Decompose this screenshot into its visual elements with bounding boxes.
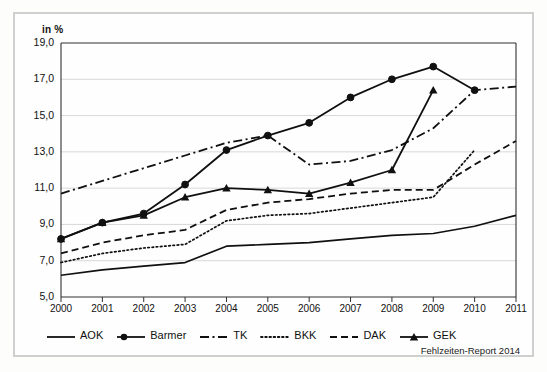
x-tick-label: 2001 bbox=[82, 303, 122, 314]
data-point-marker-barmer bbox=[306, 119, 313, 126]
x-tick-label: 2008 bbox=[372, 303, 412, 314]
axis-lines-group bbox=[61, 43, 516, 297]
series-line-gek bbox=[61, 90, 433, 239]
x-tick-label: 2004 bbox=[206, 303, 246, 314]
data-point-marker-barmer bbox=[182, 181, 189, 188]
data-point-marker-gek bbox=[388, 166, 396, 174]
legend-entry-aok[interactable]: AOK bbox=[46, 329, 103, 341]
legend-swatch-tk-icon bbox=[199, 329, 229, 341]
data-series-group bbox=[57, 63, 516, 275]
x-tick-label: 2005 bbox=[248, 303, 288, 314]
y-tick-label: 17,0 bbox=[24, 72, 54, 84]
chart-legend: AOKBarmerTKBKKDAKGEK bbox=[46, 326, 486, 344]
legend-label: AOK bbox=[80, 329, 103, 341]
x-tick-label: 2006 bbox=[289, 303, 329, 314]
y-tick-label: 9,0 bbox=[24, 217, 54, 229]
gridlines-group bbox=[61, 79, 516, 260]
source-note: Fehlzeiten-Report 2014 bbox=[421, 345, 520, 356]
legend-entry-tk[interactable]: TK bbox=[199, 329, 247, 341]
chart-figure: in % 5,07,09,011,013,015,017,019,0 20002… bbox=[0, 0, 547, 372]
legend-swatch-gek-icon bbox=[399, 329, 429, 341]
legend-swatch-dak-icon bbox=[329, 329, 359, 341]
legend-entry-bkk[interactable]: BKK bbox=[260, 329, 316, 341]
y-tick-label: 5,0 bbox=[24, 290, 54, 302]
data-point-marker-barmer bbox=[430, 63, 437, 70]
data-point-marker-barmer bbox=[389, 76, 396, 83]
x-tick-label: 2011 bbox=[496, 303, 536, 314]
legend-swatch-aok-icon bbox=[46, 329, 76, 341]
legend-label: GEK bbox=[433, 329, 456, 341]
x-tick-label: 2003 bbox=[165, 303, 205, 314]
data-point-marker-barmer bbox=[223, 147, 230, 154]
y-tick-label: 15,0 bbox=[24, 109, 54, 121]
legend-swatch-barmer-icon bbox=[116, 329, 146, 341]
legend-entry-barmer[interactable]: Barmer bbox=[116, 329, 186, 341]
data-point-marker-gek bbox=[429, 86, 437, 94]
legend-label: DAK bbox=[363, 329, 386, 341]
y-tick-label: 11,0 bbox=[24, 181, 54, 193]
series-line-tk bbox=[61, 87, 516, 194]
x-tick-label: 2002 bbox=[124, 303, 164, 314]
x-tick-label: 2009 bbox=[413, 303, 453, 314]
legend-label: TK bbox=[233, 329, 247, 341]
legend-entry-gek[interactable]: GEK bbox=[399, 329, 456, 341]
series-line-barmer bbox=[61, 67, 475, 239]
y-tick-label: 19,0 bbox=[24, 36, 54, 48]
data-point-marker-barmer bbox=[347, 94, 354, 101]
chart-plot-area bbox=[0, 0, 547, 372]
series-line-dak bbox=[61, 141, 516, 253]
legend-label: Barmer bbox=[150, 329, 186, 341]
y-tick-label: 13,0 bbox=[24, 145, 54, 157]
y-tick-label: 7,0 bbox=[24, 254, 54, 266]
x-tick-label: 2010 bbox=[455, 303, 495, 314]
x-tick-marks-group bbox=[61, 297, 516, 302]
legend-swatch-bkk-icon bbox=[260, 329, 290, 341]
legend-label: BKK bbox=[294, 329, 316, 341]
x-tick-label: 2000 bbox=[41, 303, 81, 314]
x-tick-label: 2007 bbox=[331, 303, 371, 314]
series-line-bkk bbox=[61, 150, 475, 262]
legend-entry-dak[interactable]: DAK bbox=[329, 329, 386, 341]
